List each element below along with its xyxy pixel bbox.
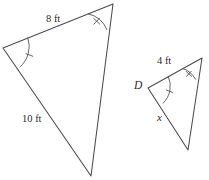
large-triangle-left-side-label: 10 ft [22,114,42,125]
geometry-figure: 8 ft 10 ft 4 ft D x [0,0,209,180]
small-triangle-unknown-side-label: x [157,112,162,123]
large-triangle-topright-angle-mark [88,14,107,30]
large-triangle-left-angle-mark [20,38,33,67]
small-triangle-top-side-label: 4 ft [157,56,171,67]
geometry-canvas [0,0,209,180]
small-triangle-vertex-d-label: D [134,80,142,92]
small-triangle [148,58,202,150]
small-triangle-left-angle-mark [163,77,173,103]
angle-tick-mark [26,54,33,57]
small-triangle-outline [148,58,202,150]
small-triangle-topright-angle-mark [183,69,196,80]
large-triangle-top-side-label: 8 ft [46,14,60,25]
single-tick-arc [20,38,29,67]
large-triangle-outline [3,4,113,176]
large-triangle [3,4,113,176]
